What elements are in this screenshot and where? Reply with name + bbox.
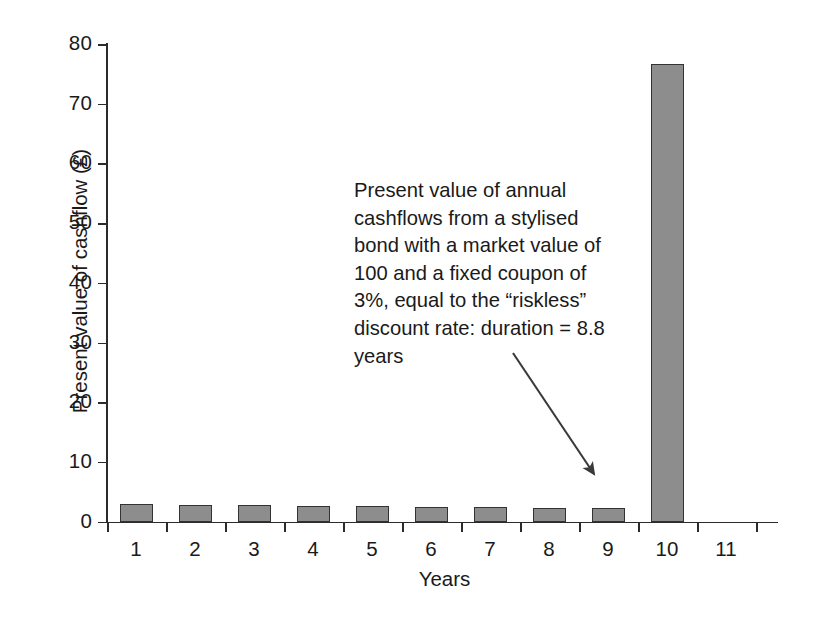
x-tick-label-4: 4 <box>283 538 343 560</box>
y-tick-label-50: 50 <box>48 212 92 233</box>
y-tick-label-30: 30 <box>48 332 92 353</box>
y-tick-10 <box>98 462 106 464</box>
bar-year-7 <box>474 507 507 521</box>
bar-year-2 <box>179 505 212 522</box>
x-tick-label-3: 3 <box>224 538 284 560</box>
y-tick-20 <box>98 402 106 404</box>
x-axis-title: Years <box>342 568 547 590</box>
bar-year-6 <box>415 507 448 522</box>
y-tick-label-20: 20 <box>48 391 92 412</box>
x-tick-6 <box>461 523 463 532</box>
y-tick-label-60: 60 <box>48 152 92 173</box>
y-tick-label-0: 0 <box>48 511 92 532</box>
y-axis-line <box>106 43 108 523</box>
x-tick-label-11: 11 <box>696 538 756 560</box>
x-tick-label-5: 5 <box>342 538 402 560</box>
y-tick-70 <box>98 104 106 106</box>
x-tick-0 <box>107 523 109 532</box>
bar-year-5 <box>356 506 389 521</box>
x-tick-7 <box>520 523 522 532</box>
bar-year-4 <box>297 506 330 522</box>
y-tick-0 <box>98 522 106 524</box>
annotation-text: Present value of annual cashflows from a… <box>354 177 622 370</box>
x-tick-9 <box>638 523 640 532</box>
x-tick-10 <box>697 523 699 532</box>
y-tick-label-40: 40 <box>48 272 92 293</box>
x-tick-1 <box>166 523 168 532</box>
x-tick-label-6: 6 <box>401 538 461 560</box>
x-tick-4 <box>343 523 345 532</box>
x-tick-label-9: 9 <box>578 538 638 560</box>
x-tick-8 <box>579 523 581 532</box>
x-tick-3 <box>284 523 286 532</box>
x-tick-2 <box>225 523 227 532</box>
y-tick-label-70: 70 <box>48 93 92 114</box>
y-tick-60 <box>98 163 106 165</box>
x-tick-11 <box>756 523 758 532</box>
bar-year-10 <box>651 64 684 521</box>
y-tick-30 <box>98 343 106 345</box>
x-tick-label-8: 8 <box>519 538 579 560</box>
x-tick-label-2: 2 <box>165 538 225 560</box>
x-axis-line <box>106 522 778 524</box>
x-tick-label-10: 10 <box>637 538 697 560</box>
bar-chart-figure: Present value of cashflow (£) 0 10 20 30… <box>0 0 819 622</box>
bar-year-8 <box>533 508 566 522</box>
y-tick-40 <box>98 283 106 285</box>
y-tick-50 <box>98 223 106 225</box>
bar-year-1 <box>120 504 153 521</box>
x-tick-label-1: 1 <box>106 538 166 560</box>
x-tick-label-7: 7 <box>460 538 520 560</box>
y-tick-label-80: 80 <box>48 33 92 54</box>
bar-year-9 <box>592 508 625 521</box>
bar-year-3 <box>238 505 271 521</box>
y-tick-80 <box>98 44 106 46</box>
y-tick-label-10: 10 <box>48 451 92 472</box>
x-tick-5 <box>402 523 404 532</box>
